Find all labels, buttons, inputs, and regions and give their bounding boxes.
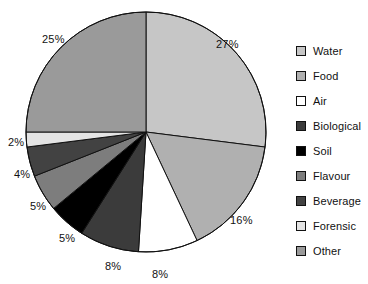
legend-item-flavour[interactable]: Flavour xyxy=(296,163,368,188)
legend-swatch-icon xyxy=(296,246,306,256)
legend-item-label: Other xyxy=(313,245,341,257)
slice-percent-label: 16% xyxy=(230,214,253,226)
legend-item-label: Air xyxy=(313,95,327,107)
legend-swatch-icon xyxy=(296,196,306,206)
legend-item-beverage[interactable]: Beverage xyxy=(296,188,368,213)
legend-item-label: Food xyxy=(313,70,338,82)
legend-item-food[interactable]: Food xyxy=(296,63,368,88)
legend-item-label: Flavour xyxy=(313,170,350,182)
slice-percent-label: 27% xyxy=(216,38,239,50)
legend-item-water[interactable]: Water xyxy=(296,38,368,63)
legend-item-air[interactable]: Air xyxy=(296,88,368,113)
slice-percent-label: 5% xyxy=(59,232,75,244)
legend-item-soil[interactable]: Soil xyxy=(296,138,368,163)
chart-legend: WaterFoodAirBiologicalSoilFlavourBeverag… xyxy=(296,38,368,263)
slice-percent-label: 8% xyxy=(105,260,121,272)
pie-chart-figure: 27%16%8%8%5%5%4%2%25% WaterFoodAirBiolog… xyxy=(0,0,368,284)
legend-item-label: Soil xyxy=(313,145,332,157)
legend-swatch-icon xyxy=(296,171,306,181)
legend-item-label: Beverage xyxy=(313,195,361,207)
pie-slice-other[interactable] xyxy=(26,12,146,132)
legend-swatch-icon xyxy=(296,146,306,156)
pie-slice-water[interactable] xyxy=(146,12,266,147)
legend-swatch-icon xyxy=(296,221,306,231)
legend-swatch-icon xyxy=(296,96,306,106)
legend-item-label: Water xyxy=(313,45,342,57)
slice-percent-label: 8% xyxy=(152,268,168,280)
slice-percent-label: 2% xyxy=(8,136,24,148)
legend-item-biological[interactable]: Biological xyxy=(296,113,368,138)
legend-item-label: Forensic xyxy=(313,220,356,232)
legend-swatch-icon xyxy=(296,71,306,81)
slice-percent-label: 25% xyxy=(42,33,65,45)
legend-swatch-icon xyxy=(296,46,306,56)
legend-item-label: Biological xyxy=(313,120,361,132)
legend-item-other[interactable]: Other xyxy=(296,238,368,263)
slice-percent-label: 5% xyxy=(30,200,46,212)
legend-item-forensic[interactable]: Forensic xyxy=(296,213,368,238)
slice-percent-label: 4% xyxy=(14,168,30,180)
legend-swatch-icon xyxy=(296,121,306,131)
